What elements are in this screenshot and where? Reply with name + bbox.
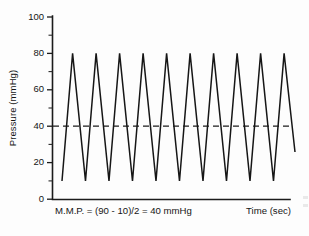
y-tick-label-20: 20 xyxy=(33,156,44,167)
mean-pressure-caption: M.M.P. = (90 - 10)/2 = 40 mmHg xyxy=(55,205,192,216)
pressure-waveform-figure: 0 20 40 60 80 100 Pressure (mmHg) xyxy=(0,0,309,236)
x-axis-title: Time (sec) xyxy=(246,205,291,216)
chart-canvas: 0 20 40 60 80 100 Pressure (mmHg) xyxy=(0,0,309,236)
y-tick-label-60: 60 xyxy=(33,83,44,94)
y-tick-label-40: 40 xyxy=(33,120,44,131)
axis-spine xyxy=(53,16,291,200)
y-tick-label-80: 80 xyxy=(33,47,44,58)
y-tick-label-0: 0 xyxy=(39,193,44,204)
pressure-waveform-trace xyxy=(62,53,295,181)
y-axis-tick-labels: 0 20 40 60 80 100 xyxy=(28,11,44,204)
y-axis-title: Pressure (mmHg) xyxy=(7,70,18,146)
scan-artifact-upper xyxy=(303,196,308,199)
scan-artifact-lower xyxy=(303,204,308,207)
y-tick-label-100: 100 xyxy=(28,11,44,22)
